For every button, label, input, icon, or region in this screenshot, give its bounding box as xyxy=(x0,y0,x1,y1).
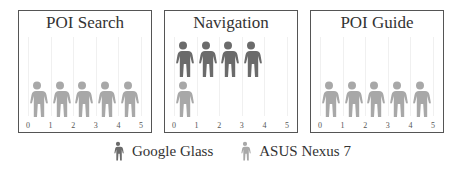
x-tick-label: 0 xyxy=(172,121,176,130)
x-tick-label: 2 xyxy=(217,121,221,130)
legend-item-google-glass: Google Glass xyxy=(112,141,213,161)
x-tick-label: 3 xyxy=(386,121,390,130)
x-tick-label: 1 xyxy=(49,121,53,130)
gridline xyxy=(433,37,434,116)
row-asus-nexus-7 xyxy=(26,80,139,118)
x-tick-label: 3 xyxy=(94,121,98,130)
panel-title: POI Guide xyxy=(311,13,443,33)
gridline xyxy=(264,37,265,116)
person-icon-dark xyxy=(112,141,124,161)
panel-navigation: Navigation012345 xyxy=(164,10,298,133)
x-tick-label: 4 xyxy=(116,121,120,130)
x-tick-label: 1 xyxy=(341,121,345,130)
x-tick-label: 2 xyxy=(363,121,367,130)
person-icon xyxy=(71,80,94,118)
person-icon xyxy=(318,80,341,118)
legend: Google Glass ASUS Nexus 7 xyxy=(0,141,463,161)
person-icon xyxy=(49,80,72,118)
person-icon xyxy=(217,40,240,78)
panel-poi-guide: POI Guide012345 xyxy=(310,10,444,133)
person-icon-light xyxy=(239,141,251,161)
gridline xyxy=(287,37,288,116)
legend-label-asus-nexus-7: ASUS Nexus 7 xyxy=(259,143,351,160)
x-tick-label: 5 xyxy=(285,121,289,130)
x-tick-label: 3 xyxy=(240,121,244,130)
x-tick-label: 1 xyxy=(195,121,199,130)
panel-title: Navigation xyxy=(165,13,297,33)
person-icon xyxy=(363,80,386,118)
x-tick-label: 2 xyxy=(71,121,75,130)
person-icon xyxy=(341,80,364,118)
person-icon xyxy=(94,80,117,118)
person-icon xyxy=(172,80,195,118)
x-tick-label: 0 xyxy=(318,121,322,130)
person-icon xyxy=(240,40,263,78)
person-icon xyxy=(26,80,49,118)
panel-poi-search: POI Search012345 xyxy=(18,10,152,133)
legend-label-google-glass: Google Glass xyxy=(132,143,213,160)
person-icon xyxy=(116,80,139,118)
person-icon xyxy=(172,40,195,78)
row-asus-nexus-7 xyxy=(318,80,431,118)
x-tick-label: 5 xyxy=(431,121,435,130)
x-tick-label: 0 xyxy=(26,121,30,130)
legend-item-asus-nexus-7: ASUS Nexus 7 xyxy=(239,141,351,161)
row-google-glass xyxy=(172,40,262,78)
panel-title: POI Search xyxy=(19,13,151,33)
x-tick-label: 4 xyxy=(408,121,412,130)
row-asus-nexus-7 xyxy=(172,80,195,118)
x-tick-label: 5 xyxy=(139,121,143,130)
gridline xyxy=(141,37,142,116)
x-tick-label: 4 xyxy=(262,121,266,130)
person-icon xyxy=(195,40,218,78)
person-icon xyxy=(386,80,409,118)
person-icon xyxy=(408,80,431,118)
